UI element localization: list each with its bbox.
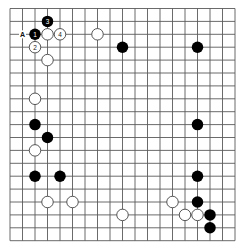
white-stone-icon [42,54,54,66]
white-stone: 2 [29,41,41,53]
black-stone-icon [192,170,204,182]
black-stone-icon [192,119,204,131]
white-stone [92,29,104,41]
black-stone [204,222,216,234]
white-stone [167,196,179,208]
white-stone [29,145,41,157]
black-stone [192,41,204,53]
white-stone-icon [179,209,191,221]
black-stone-icon [192,41,204,53]
black-stone-icon [29,170,41,182]
white-stone [42,196,54,208]
white-stone-icon [42,29,54,41]
white-stone-icon [67,196,79,208]
black-stone-icon [54,170,66,182]
white-stone: 4 [54,29,66,41]
black-stone [117,41,129,53]
black-stone [29,119,41,131]
black-stone-icon [204,222,216,234]
black-stone [204,209,216,221]
white-stone-icon [42,196,54,208]
board-markers: A [19,30,26,38]
white-stone [42,54,54,66]
stone-move-number: 4 [58,31,62,38]
black-stone-icon [29,119,41,131]
stone-move-number: 2 [33,44,37,51]
black-stone [192,119,204,131]
marker-label-a: A [20,31,25,38]
stone-move-number: 3 [46,18,50,25]
white-stone-icon [29,145,41,157]
black-stone: 1 [29,29,41,41]
black-stone-icon [204,209,216,221]
white-stone-icon [92,29,104,41]
stone-move-number: 1 [33,31,37,38]
white-stone-icon [167,196,179,208]
white-stone [67,196,79,208]
white-stone-icon [117,209,129,221]
white-stone [192,209,204,221]
black-stone [54,170,66,182]
black-stone-icon [192,196,204,208]
black-stone [192,170,204,182]
white-stone-icon [192,209,204,221]
black-stone-icon [117,41,129,53]
black-stone [192,196,204,208]
white-stone [179,209,191,221]
go-board-diagram: A 3142 [0,0,243,251]
white-stone [29,93,41,105]
black-stone: 3 [42,16,54,28]
white-stone-icon [29,93,41,105]
black-stone-icon [42,132,54,144]
black-stone [29,170,41,182]
white-stone [42,29,54,41]
black-stone [42,132,54,144]
white-stone [117,209,129,221]
go-board-svg: A 3142 [0,0,243,251]
